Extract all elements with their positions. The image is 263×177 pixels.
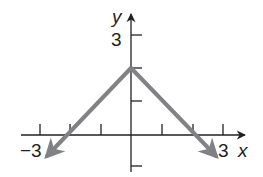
x-axis-label: x — [237, 140, 249, 161]
graph-line — [47, 68, 131, 156]
x-tick-label-neg3: −3 — [20, 140, 42, 161]
y-ticks — [131, 35, 142, 166]
chart-canvas: y 3 −3 3 x — [0, 0, 263, 177]
x-tick-label-3: 3 — [218, 140, 229, 161]
y-tick-label-3: 3 — [111, 29, 122, 50]
y-axis-label: y — [110, 6, 123, 27]
graph-line — [131, 68, 216, 156]
